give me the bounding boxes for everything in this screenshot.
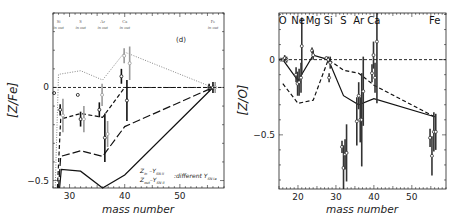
data-point: [345, 124, 348, 181]
right-element-labels: ONeMgSiSArCaFe: [279, 15, 440, 26]
right-panel: 203040500−0.5 ONeMgSiSArCaFe mass number…: [236, 13, 446, 215]
element-label: Ca: [122, 19, 127, 24]
element-label: O: [279, 15, 287, 26]
element-label: Ar: [100, 19, 105, 24]
element-label: Ne: [291, 15, 305, 26]
left-element-labels: Siin outSin outArin outCain outFein out: [53, 19, 219, 30]
left-legend: Zin –YSN II Zout–YSN II :different YSN I…: [139, 167, 217, 185]
data-point: [98, 102, 101, 117]
series-dotted-grey: [55, 52, 213, 188]
y-tick-label: −0.5: [253, 130, 275, 140]
y-tick-label: 0: [43, 82, 49, 92]
figure: 3040500−0.5 Siin outSin outArin outCain …: [0, 0, 455, 222]
element-label: Fe: [211, 19, 216, 24]
right-data-points: [279, 13, 437, 189]
data-point: [434, 114, 437, 150]
element-label: Fe: [429, 15, 440, 26]
x-tick-label: 40: [368, 192, 380, 202]
x-tick-label: 50: [174, 191, 186, 201]
element-sublabel: in out: [97, 25, 108, 30]
element-sublabel: in out: [120, 25, 131, 30]
left-panel-label: (d): [176, 36, 186, 44]
data-point: [106, 121, 109, 147]
left-y-axis-title: [Z/Fe]: [6, 82, 20, 118]
data-point: [375, 13, 378, 103]
data-point: [429, 129, 432, 147]
data-point: [76, 93, 79, 96]
element-label: Si: [324, 15, 333, 26]
x-tick-label: 20: [292, 192, 304, 202]
y-tick-label: 0: [269, 55, 275, 65]
element-label: Mg: [306, 15, 321, 26]
right-y-axis-title: [Z/O]: [236, 84, 250, 115]
element-label: Si: [57, 19, 62, 24]
legend-line-1: Zin –YSN II: [139, 167, 164, 176]
data-point: [328, 73, 331, 82]
left-panel: 3040500−0.5 Siin outSin outArin outCain …: [6, 13, 224, 215]
data-point: [59, 104, 62, 115]
data-point: [125, 80, 128, 121]
left-x-axis-title: mass number: [102, 203, 175, 215]
left-series-lines: [55, 52, 213, 188]
legend-suffix: :different YSN Ia: [174, 172, 217, 181]
element-label: S: [340, 15, 346, 26]
right-x-axis-title: mass number: [326, 203, 399, 215]
data-point: [82, 106, 85, 132]
x-tick-label: 30: [64, 191, 76, 201]
left-data-points: [53, 47, 217, 162]
data-point: [128, 47, 131, 81]
data-point: [123, 48, 126, 63]
legend-line-2: Zout–YSN II: [139, 176, 165, 185]
data-point: [79, 112, 82, 127]
data-point: [430, 136, 433, 175]
data-point: [61, 99, 64, 133]
element-label: S: [79, 19, 82, 24]
element-label: Ca: [367, 15, 380, 26]
x-tick-label: 30: [330, 192, 342, 202]
x-tick-label: 50: [406, 192, 418, 202]
x-tick-label: 40: [119, 191, 131, 201]
element-sublabel: in out: [75, 25, 86, 30]
element-sublabel: in out: [208, 25, 219, 30]
element-label: Ar: [353, 15, 365, 26]
element-sublabel: in out: [53, 25, 64, 30]
data-point: [120, 69, 123, 84]
y-tick-label: −0.5: [27, 176, 49, 186]
